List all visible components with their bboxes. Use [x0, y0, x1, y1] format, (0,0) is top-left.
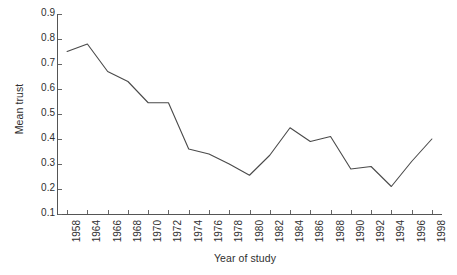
x-axis-title: Year of study — [45, 252, 445, 264]
x-axis-title-text: Year of study — [214, 252, 276, 264]
x-tick-label: 1996 — [416, 220, 427, 242]
y-tick-label: 0.4 — [41, 132, 55, 143]
x-tick-label: 1966 — [112, 220, 123, 242]
y-tick-label: 0.3 — [41, 157, 55, 168]
y-tick-label: 0.2 — [41, 182, 55, 193]
y-tick: 0.1 — [58, 214, 62, 215]
y-tick-label: 0.9 — [41, 7, 55, 18]
y-axis-title-text: Mean trust — [13, 84, 25, 135]
series-line-path — [67, 44, 432, 187]
x-tick-label: 1970 — [152, 220, 163, 242]
x-tick-label: 1998 — [436, 220, 447, 242]
x-tick-label: 1974 — [193, 220, 204, 242]
x-tick-label: 1986 — [314, 220, 325, 242]
x-tick-label: 1958 — [71, 220, 82, 242]
y-tick-label: 0.5 — [41, 107, 55, 118]
y-axis-title: Mean trust — [8, 0, 30, 218]
x-tick-label: 1980 — [254, 220, 265, 242]
x-tick-label: 1992 — [375, 220, 386, 242]
x-tick-label: 1968 — [132, 220, 143, 242]
y-tick-label: 0.8 — [41, 32, 55, 43]
x-tick-label: 1982 — [274, 220, 285, 242]
line-chart-figure: Mean trust 0.90.80.70.60.50.40.30.20.1 1… — [0, 0, 457, 275]
series-mean-trust — [57, 14, 442, 214]
x-tick-label: 1984 — [294, 220, 305, 242]
y-tick-label: 0.7 — [41, 57, 55, 68]
x-tick-label: 1964 — [91, 220, 102, 242]
x-tick-label: 1988 — [335, 220, 346, 242]
plot-area: 0.90.80.70.60.50.40.30.20.1 195819641966… — [57, 14, 442, 214]
x-axis-spine — [57, 214, 442, 215]
y-tick-label: 0.6 — [41, 82, 55, 93]
x-tick-label: 1994 — [395, 220, 406, 242]
x-tick-label: 1972 — [172, 220, 183, 242]
x-tick-label: 1990 — [355, 220, 366, 242]
y-tick-label: 0.1 — [41, 207, 55, 218]
x-tick-label: 1976 — [213, 220, 224, 242]
x-tick-label: 1978 — [233, 220, 244, 242]
